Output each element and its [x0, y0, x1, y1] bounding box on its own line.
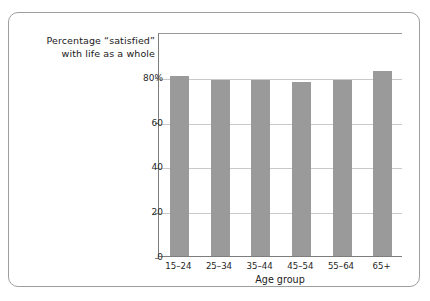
x-tick-label: 35–44: [237, 261, 283, 271]
y-tick-label: 80%: [103, 73, 163, 83]
x-tick-label: 25–34: [196, 261, 242, 271]
gridline: [159, 124, 402, 125]
bar: [211, 80, 230, 257]
x-tick-label: 55–64: [318, 261, 364, 271]
bar: [292, 82, 311, 257]
plot-area: [158, 33, 402, 257]
gridline: [159, 168, 402, 169]
chart-title-line-2: with life as a whole: [15, 48, 155, 61]
gridline: [159, 213, 402, 214]
x-axis-line: [159, 256, 402, 257]
gridline: [159, 79, 402, 80]
x-tick-label: 65+: [359, 261, 405, 271]
y-tick-label: 0: [103, 252, 163, 262]
x-tick-label: 45–54: [277, 261, 323, 271]
bar: [170, 76, 189, 257]
y-tick-label: 60: [103, 118, 163, 128]
bar: [333, 80, 352, 257]
y-tick-label: 20: [103, 207, 163, 217]
x-axis-title: Age group: [158, 274, 402, 285]
bar: [251, 80, 270, 257]
y-tick-label: 40: [103, 162, 163, 172]
chart-title-line-1: Percentage “satisfied”: [15, 35, 155, 48]
x-tick-label: 15–24: [155, 261, 201, 271]
chart-card: Percentage “satisfied” with life as a wh…: [8, 12, 420, 287]
chart-title: Percentage “satisfied” with life as a wh…: [15, 35, 155, 60]
bar: [373, 71, 392, 257]
